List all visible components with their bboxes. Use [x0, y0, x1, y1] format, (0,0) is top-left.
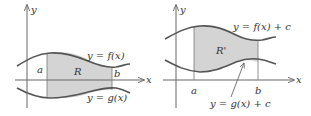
- bound-label-a: a: [37, 64, 43, 75]
- region-label: R': [215, 45, 226, 56]
- x-axis-label: x: [146, 74, 152, 85]
- left-panel: y x a R b y = f(x) y = g(x): [15, 4, 152, 108]
- upper-curve-label: y = f(x) + c: [232, 21, 291, 32]
- y-axis-label: y: [179, 4, 186, 15]
- x-axis-label: x: [296, 74, 302, 85]
- bound-label-b: b: [114, 68, 120, 79]
- upper-curve-label: y = f(x): [86, 50, 125, 61]
- figure: y x a R b y = f(x) y = g(x) y x R' y = f…: [0, 0, 311, 116]
- right-panel: y x R' y = f(x) + c a b y = g(x) + c: [163, 4, 302, 109]
- lower-curve-label: y = g(x): [86, 92, 127, 103]
- bound-label-a: a: [191, 85, 197, 96]
- bound-label-b: b: [255, 85, 261, 96]
- y-axis-label: y: [30, 4, 37, 15]
- lower-curve-label: y = g(x) + c: [209, 98, 271, 109]
- region-label: R: [73, 66, 82, 77]
